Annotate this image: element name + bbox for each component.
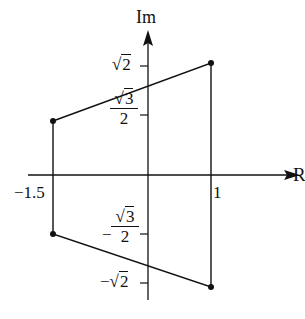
radicand: 3 <box>125 206 135 226</box>
radicand: 2 <box>119 271 129 291</box>
sqrt-icon: √ <box>116 207 125 226</box>
minus-sign: − <box>100 272 110 291</box>
y-tick-label-neg-sqrt2: −√2 <box>100 273 128 290</box>
sqrt-icon: √ <box>112 55 121 74</box>
y-axis-label: Im <box>136 8 156 26</box>
x-axis-label: R <box>293 165 305 184</box>
radicand: 2 <box>121 54 131 74</box>
sqrt-icon: √ <box>110 272 119 291</box>
vertex-top-right <box>208 60 214 66</box>
radicand: 3 <box>124 88 134 108</box>
diagram-canvas <box>0 0 305 319</box>
y-tick-label-sqrt3-over-2: √3 2 <box>110 90 138 127</box>
sqrt-icon: √ <box>115 89 124 108</box>
vertex-bottom-left <box>50 231 56 237</box>
x-tick-label-neg-1-5: −1.5 <box>14 184 45 201</box>
y-tick-label-sqrt2: √2 <box>112 56 131 73</box>
vertex-top-left <box>50 118 56 124</box>
vertex-bottom-right <box>208 284 214 290</box>
denominator: 2 <box>111 227 139 245</box>
numerator: √3 <box>111 208 139 227</box>
denominator: 2 <box>110 109 138 127</box>
x-tick-label-1: 1 <box>213 184 222 201</box>
numerator: √3 <box>110 90 138 109</box>
y-tick-label-neg-sqrt3-over-2: √3 2 <box>111 208 139 245</box>
